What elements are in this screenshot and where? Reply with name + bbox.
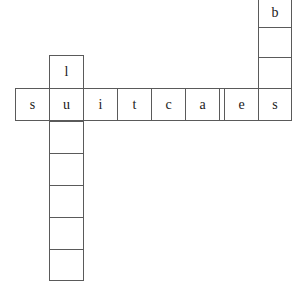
cell-down1-2[interactable] bbox=[49, 121, 84, 154]
cell-down1-0[interactable]: l bbox=[49, 55, 84, 89]
cell-letter: u bbox=[63, 98, 70, 112]
cell-down1-4[interactable] bbox=[49, 185, 84, 218]
cell-down1-3[interactable] bbox=[49, 153, 84, 186]
cell-across-1[interactable]: u bbox=[49, 88, 84, 121]
crossword-grid: suitcaseslb bbox=[0, 0, 301, 288]
cell-letter: e bbox=[238, 98, 244, 112]
cell-letter: l bbox=[65, 65, 69, 79]
cell-letter: t bbox=[133, 98, 137, 112]
cell-letter: a bbox=[199, 98, 205, 112]
cell-across-3[interactable]: t bbox=[117, 88, 152, 121]
cell-letter: s bbox=[30, 98, 35, 112]
cell-across-2[interactable]: i bbox=[83, 88, 118, 121]
cell-letter: b bbox=[272, 6, 279, 20]
cell-down1-6[interactable] bbox=[49, 249, 84, 281]
cell-across-7[interactable]: e bbox=[224, 88, 259, 121]
cell-letter: i bbox=[99, 98, 103, 112]
cell-across-0[interactable]: s bbox=[15, 88, 50, 121]
cell-across-8[interactable]: s bbox=[258, 88, 292, 121]
cell-down2-1[interactable] bbox=[258, 27, 292, 58]
cell-letter: c bbox=[165, 98, 171, 112]
cell-down2-2[interactable] bbox=[258, 57, 292, 89]
cell-down1-5[interactable] bbox=[49, 217, 84, 250]
cell-down2-0[interactable]: b bbox=[258, 0, 292, 28]
cell-across-4[interactable]: c bbox=[151, 88, 186, 121]
cell-letter: s bbox=[272, 98, 277, 112]
cell-across-5[interactable]: a bbox=[185, 88, 220, 121]
